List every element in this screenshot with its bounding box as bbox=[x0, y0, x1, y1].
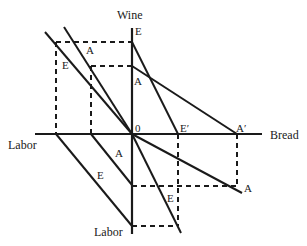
trade-diagram bbox=[0, 0, 307, 246]
axis-label-bread: Bread bbox=[270, 129, 299, 141]
lr-line-E bbox=[132, 134, 181, 233]
axis-label-A-prime: A′ bbox=[236, 123, 246, 134]
ur-line-E bbox=[132, 42, 178, 134]
ul-label-A: A bbox=[86, 45, 94, 56]
axis-label-E-prime: E′ bbox=[180, 123, 189, 134]
ll-label-E: E bbox=[97, 170, 104, 181]
ur-label-E: E bbox=[135, 26, 142, 37]
lr-label-A: A bbox=[244, 183, 252, 194]
axis-label-wine: Wine bbox=[117, 9, 143, 21]
origin-label: 0 bbox=[135, 123, 141, 134]
ul-line-A bbox=[64, 27, 132, 134]
axis-label-labor-bottom: Labor bbox=[94, 226, 123, 238]
axis-label-labor-left: Labor bbox=[8, 139, 37, 151]
lr-line-A bbox=[132, 134, 242, 193]
ul-label-E: E bbox=[62, 60, 69, 71]
ur-label-A: A bbox=[134, 76, 142, 87]
lr-label-E: E bbox=[167, 193, 174, 204]
ll-label-A: A bbox=[115, 148, 123, 159]
